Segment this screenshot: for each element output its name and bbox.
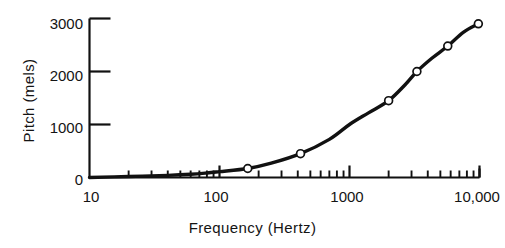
chart-figure: 3000 2000 1000 0 10 100 1000 10,000 Freq… [0, 0, 505, 248]
data-point-5 [444, 42, 452, 50]
data-point-1 [244, 165, 252, 173]
x-tick-label-100: 100 [203, 189, 228, 204]
data-point-3 [385, 97, 393, 105]
x-tick-label-10: 10 [83, 189, 100, 204]
y-axis-title: Pitch (mels) [20, 26, 37, 176]
x-tick-label-10000: 10,000 [454, 189, 500, 204]
data-point-4 [413, 68, 421, 76]
x-tick-label-1000: 1000 [330, 189, 363, 204]
data-point-2 [297, 150, 305, 158]
data-point-6 [474, 20, 482, 28]
x-axis-title: Frequency (Hertz) [0, 219, 505, 236]
